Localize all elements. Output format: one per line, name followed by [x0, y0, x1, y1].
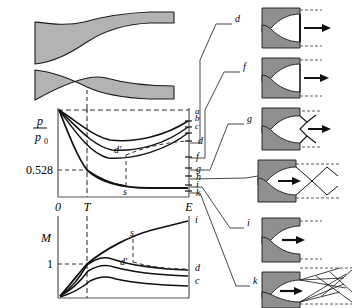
- pressure-xtick-0: 0: [55, 200, 61, 214]
- mach-annotation-s: s: [130, 227, 134, 238]
- pressure-axis-label: p p 0: [33, 114, 48, 146]
- mach-axis-label: M: [40, 231, 52, 245]
- pressure-axis-numerator: p: [36, 114, 43, 128]
- mach-label-i: i: [195, 214, 198, 225]
- pressure-shock-branch: [87, 170, 126, 186]
- nozzle-case-k-expansion-fan: [300, 268, 352, 302]
- pressure-label-d: d: [198, 135, 204, 146]
- nozzle-case-k-arrowhead: [294, 287, 303, 295]
- mach-curve-lower: [60, 277, 188, 297]
- pressure-axis-denominator: p: [34, 130, 41, 144]
- mach-chart: M 1 i d c s d': [40, 214, 201, 298]
- nozzle-case-i-arrowhead: [296, 236, 305, 244]
- nozzle-case-h-arrowhead: [292, 177, 301, 185]
- mach-label-d: d: [195, 262, 201, 273]
- pressure-axis-denominator-sub: 0: [44, 137, 48, 146]
- pressure-label-k: k: [196, 187, 201, 198]
- leader-label-k: k: [253, 275, 258, 286]
- nozzle-case-g-arrowhead: [322, 125, 331, 133]
- nozzle-case-g-lower: [262, 126, 300, 150]
- nozzle-lower-wall: [35, 70, 174, 100]
- leader-label-d: d: [235, 13, 241, 24]
- nozzle-case-h: [258, 160, 340, 202]
- pressure-chart: p p 0 0.528 0 T E a b c d f g h i k d' s: [26, 106, 204, 214]
- leader-lines: [190, 24, 258, 286]
- large-nozzle-cross-section: [35, 12, 174, 112]
- leader-label-i: i: [247, 217, 250, 228]
- nozzle-case-f-lower: [262, 75, 300, 98]
- nozzle-case-f-arrowhead: [320, 74, 329, 82]
- nozzle-case-i: [262, 218, 322, 262]
- nozzle-case-d-lower: [262, 25, 300, 48]
- nozzle-case-d: [262, 8, 331, 48]
- pressure-annotation-s: s: [123, 186, 127, 197]
- critical-ratio-tick-label: 0.528: [26, 163, 53, 177]
- pressure-curve-c: [59, 110, 188, 158]
- nozzle-case-g: [262, 108, 331, 150]
- pressure-curve-supersonic: [59, 110, 188, 188]
- pressure-label-c: c: [195, 121, 199, 131]
- pressure-xtick-T: T: [84, 200, 92, 214]
- nozzle-case-k: [262, 268, 352, 308]
- nozzle-upper-wall: [35, 12, 174, 64]
- nozzle-case-d-arrowhead: [322, 24, 331, 32]
- nozzle-case-h-shock-diamond: [296, 167, 338, 195]
- nozzle-flow-figure: p p 0 0.528 0 T E a b c d f g h i k d' s: [0, 0, 354, 308]
- mach-label-c: c: [195, 275, 200, 286]
- mach-annotation-dprime: d': [120, 256, 128, 267]
- leader-label-g: g: [247, 113, 252, 124]
- pressure-annotation-dprime: d': [114, 144, 122, 155]
- nozzle-case-f: [262, 58, 329, 98]
- pressure-label-f: f: [196, 151, 200, 162]
- leader-label-f: f: [243, 61, 247, 72]
- leader-labels: d f g h i k: [235, 13, 266, 286]
- pressure-xtick-E: E: [184, 200, 193, 214]
- mach-unity-tick-label: 1: [47, 257, 53, 271]
